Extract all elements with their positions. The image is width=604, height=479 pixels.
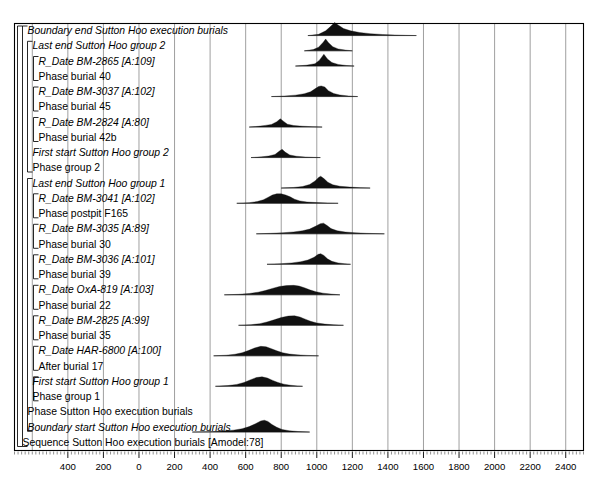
row-label: Last end Sutton Hoo group 2 [33, 40, 166, 51]
distribution-group [224, 285, 340, 294]
distribution-group [214, 346, 319, 355]
row-label: Phase burial 45 [39, 101, 111, 112]
distribution-group [249, 119, 322, 127]
axis-tick-label: 0 [136, 461, 141, 472]
row-label: R_Date BM-3035 [A:89] [39, 223, 150, 234]
axis-tick-label: 1000 [306, 461, 327, 472]
row-label: Phase burial 30 [39, 239, 111, 250]
row-label: Boundary end Sutton Hoo execution burial… [28, 25, 228, 36]
distribution-group [271, 86, 357, 97]
probability-distribution [237, 194, 338, 203]
row-label: R_Date BM-2865 [A:109] [39, 56, 156, 67]
row-label: R_Date BM-2825 [A:99] [39, 315, 150, 326]
axis-tick-label: 600 [238, 461, 254, 472]
probability-distribution [267, 254, 351, 265]
distribution-group [215, 377, 302, 386]
distribution-group [295, 54, 354, 66]
distribution-group [281, 176, 370, 188]
row-label: Boundary start Sutton Hoo execution buri… [28, 422, 231, 433]
row-label: R_Date BM-3041 [A:102] [39, 193, 156, 204]
x-axis-group: 4002000200400600800100012001400160018002… [15, 452, 584, 472]
distribution-group [267, 254, 351, 265]
distribution-group [308, 23, 416, 36]
probability-distribution [308, 23, 416, 36]
probability-distribution [295, 54, 354, 66]
probability-distribution [271, 86, 357, 97]
row-label: R_Date BM-3037 [A:102] [39, 86, 156, 97]
row-label: Sequence Sutton Hoo execution burials [A… [23, 437, 264, 448]
probability-distribution [256, 223, 384, 234]
chart-canvas: Boundary end Sutton Hoo execution burial… [0, 0, 604, 479]
distribution-group [304, 39, 352, 51]
axis-tick-label: 1800 [448, 461, 469, 472]
row-label: Phase burial 40 [39, 71, 111, 82]
axis-tick-label: 2200 [519, 461, 540, 472]
row-label: R_Date HAR-6800 [A:100] [39, 345, 163, 356]
distribution-group [251, 149, 320, 157]
axis-tick-label: 200 [167, 461, 183, 472]
axis-tick-label: 800 [273, 461, 289, 472]
axis-tick-label: 400 [60, 461, 76, 472]
oxcal-chronological-model-plot: Boundary end Sutton Hoo execution burial… [0, 0, 604, 479]
probability-distribution [304, 39, 352, 51]
probability-distribution [215, 377, 302, 386]
probability-distribution [214, 346, 319, 355]
group-bracket [18, 26, 23, 447]
probability-distribution [224, 285, 340, 294]
row-label: Phase burial 35 [39, 330, 111, 341]
row-label: R_Date BM-2824 [A:80] [39, 117, 150, 128]
row-label: Phase postpit F165 [39, 208, 129, 219]
row-label: Phase burial 42b [39, 132, 117, 143]
row-label: Last end Sutton Hoo group 1 [33, 178, 166, 189]
probability-distribution [249, 119, 322, 127]
axis-tick-label: 1600 [413, 461, 434, 472]
axis-tick-label: 2000 [484, 461, 505, 472]
row-label: First start Sutton Hoo group 1 [33, 376, 169, 387]
group-bracket [23, 26, 28, 447]
row-label: First start Sutton Hoo group 2 [33, 147, 170, 158]
probability-distribution [239, 316, 344, 325]
rows-group: Boundary end Sutton Hoo execution burial… [23, 23, 417, 448]
distribution-group [256, 223, 384, 234]
distribution-group [237, 194, 338, 203]
axis-tick-label: 1400 [377, 461, 398, 472]
axis-tick-label: 200 [95, 461, 111, 472]
row-label: After burial 17 [39, 361, 104, 372]
axis-tick-label: 2400 [555, 461, 576, 472]
axis-tick-label: 400 [202, 461, 218, 472]
row-label: Phase group 2 [33, 162, 101, 173]
probability-distribution [251, 149, 320, 157]
distribution-group [239, 316, 344, 325]
row-label: R_Date BM-3036 [A:101] [39, 254, 156, 265]
row-label: R_Date OxA-819 [A:103] [39, 284, 155, 295]
row-label: Phase burial 22 [39, 300, 111, 311]
row-label: Phase group 1 [33, 391, 101, 402]
probability-distribution [281, 176, 370, 188]
axis-tick-label: 1200 [342, 461, 363, 472]
row-label: Phase burial 39 [39, 269, 111, 280]
row-label: Phase Sutton Hoo execution burials [28, 406, 193, 417]
